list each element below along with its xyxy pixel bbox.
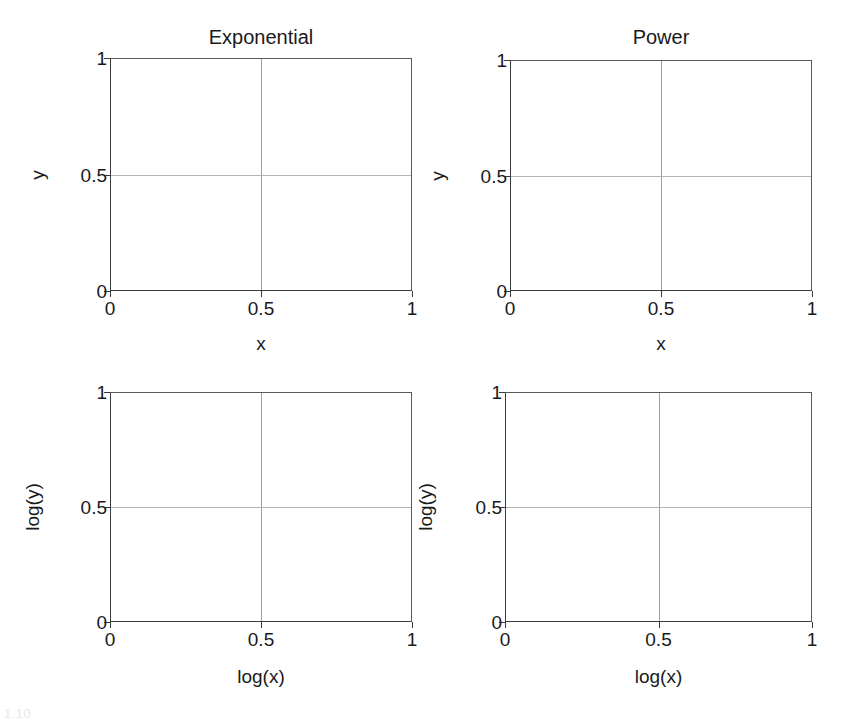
- gridline-horizontal-0.5: [111, 175, 411, 176]
- xticklabel-1: 1: [807, 629, 818, 650]
- y-axis-label: y: [27, 170, 48, 180]
- xtick-0.5: [261, 622, 262, 628]
- axes-frame: [110, 58, 412, 291]
- panel-loglog-power: 0 0.5 1 0 0.5 1 log(x) log(y): [505, 392, 812, 622]
- xtick-0.5: [659, 622, 660, 628]
- xticklabel-1: 1: [407, 298, 418, 319]
- x-axis-label: x: [510, 333, 812, 354]
- y-axis-label: y: [427, 171, 448, 181]
- figure-canvas: Exponential 0 0.5 1 0 0.5 1 x y Power: [0, 0, 851, 726]
- xtick-0: [110, 291, 111, 297]
- xtick-0: [505, 622, 506, 628]
- scan-artifact: 1.10: [4, 706, 31, 721]
- yticklabel-0.5: 0.5: [67, 164, 107, 185]
- axes-frame: [505, 392, 812, 622]
- xtick-0: [510, 291, 511, 297]
- y-axis-label: log(y): [22, 483, 43, 531]
- xtick-1: [812, 291, 813, 297]
- yticklabel-0: 0: [462, 612, 502, 633]
- xticklabel-0.5: 0.5: [248, 298, 274, 319]
- xticklabel-0.5: 0.5: [645, 629, 671, 650]
- xtick-0: [110, 622, 111, 628]
- x-axis-label: log(x): [505, 666, 812, 687]
- gridline-horizontal-0.5: [506, 507, 811, 508]
- xtick-0.5: [661, 291, 662, 297]
- axes-frame: [510, 60, 812, 291]
- xtick-0.5: [261, 291, 262, 297]
- gridline-horizontal-0.5: [111, 507, 411, 508]
- yticklabel-1: 1: [462, 382, 502, 403]
- xtick-1: [412, 622, 413, 628]
- y-axis-label: log(y): [415, 483, 436, 531]
- gridline-horizontal-0.5: [511, 176, 811, 177]
- yticklabel-0: 0: [67, 612, 107, 633]
- xticklabel-0.5: 0.5: [648, 298, 674, 319]
- xticklabel-0.5: 0.5: [248, 629, 274, 650]
- yticklabel-1: 1: [467, 50, 507, 71]
- yticklabel-1: 1: [67, 382, 107, 403]
- panel-title: Exponential: [110, 26, 412, 48]
- axes-frame: [110, 392, 412, 622]
- panel-title: Power: [510, 26, 812, 48]
- x-axis-label: x: [110, 333, 412, 354]
- panel-loglog-exponential: 0 0.5 1 0 0.5 1 log(x) log(y): [110, 392, 412, 622]
- xtick-1: [412, 291, 413, 297]
- xtick-1: [812, 622, 813, 628]
- panel-exponential: Exponential 0 0.5 1 0 0.5 1 x y: [110, 58, 412, 291]
- yticklabel-0: 0: [467, 281, 507, 302]
- xticklabel-1: 1: [807, 298, 818, 319]
- yticklabel-0.5: 0.5: [462, 497, 502, 518]
- panel-power: Power 0 0.5 1 0 0.5 1 x y: [510, 60, 812, 291]
- yticklabel-1: 1: [67, 48, 107, 69]
- x-axis-label: log(x): [110, 666, 412, 687]
- yticklabel-0.5: 0.5: [467, 165, 507, 186]
- yticklabel-0: 0: [67, 281, 107, 302]
- xticklabel-1: 1: [407, 629, 418, 650]
- yticklabel-0.5: 0.5: [67, 497, 107, 518]
